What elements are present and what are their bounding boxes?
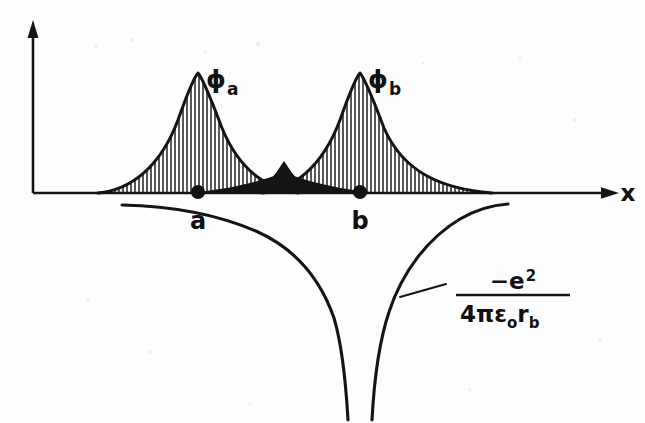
formula-numerator-superscript: 2 bbox=[526, 267, 536, 285]
nucleus-a-label: a bbox=[190, 207, 206, 235]
formula-numerator: −e2 bbox=[490, 267, 536, 294]
phi-a-label: ϕa bbox=[206, 65, 238, 99]
x-axis-label: x bbox=[621, 180, 636, 206]
nucleus-a-dot bbox=[191, 185, 205, 199]
scan-noise bbox=[86, 38, 602, 405]
formula-numerator-base: −e bbox=[490, 268, 525, 294]
phi-b-symbol: ϕ bbox=[368, 65, 388, 94]
y-axis-arrowhead bbox=[28, 20, 39, 38]
phi-a-symbol: ϕ bbox=[206, 65, 226, 94]
x-axis-arrowhead bbox=[601, 187, 619, 198]
phi-a-hatching bbox=[99, 60, 295, 195]
overlap-cusp bbox=[272, 161, 296, 178]
coulomb-left-branch bbox=[122, 205, 348, 420]
formula-denominator-lead: 4πε bbox=[460, 301, 507, 327]
formula-leader-line bbox=[400, 284, 446, 297]
phi-b-label: ϕb bbox=[368, 65, 401, 99]
figure-root: x ϕa ϕb a b −e2 4πεorb bbox=[0, 0, 645, 423]
coulomb-potential-well bbox=[122, 204, 508, 420]
nucleus-b-dot bbox=[353, 185, 367, 199]
phi-b-subscript: b bbox=[389, 79, 401, 99]
formula-denominator-sub-1: o bbox=[507, 314, 517, 332]
formula-denominator-tail: r bbox=[517, 301, 529, 327]
formula-denominator: 4πεorb bbox=[460, 301, 540, 332]
orbital-overlap-diagram: x ϕa ϕb a b −e2 4πεorb bbox=[0, 0, 645, 423]
nucleus-b-label: b bbox=[351, 207, 368, 235]
phi-a-subscript: a bbox=[227, 79, 238, 99]
orbital-phi-a bbox=[98, 60, 298, 195]
phi-a-outline bbox=[98, 73, 298, 193]
formula-denominator-sub-2: b bbox=[529, 314, 540, 332]
